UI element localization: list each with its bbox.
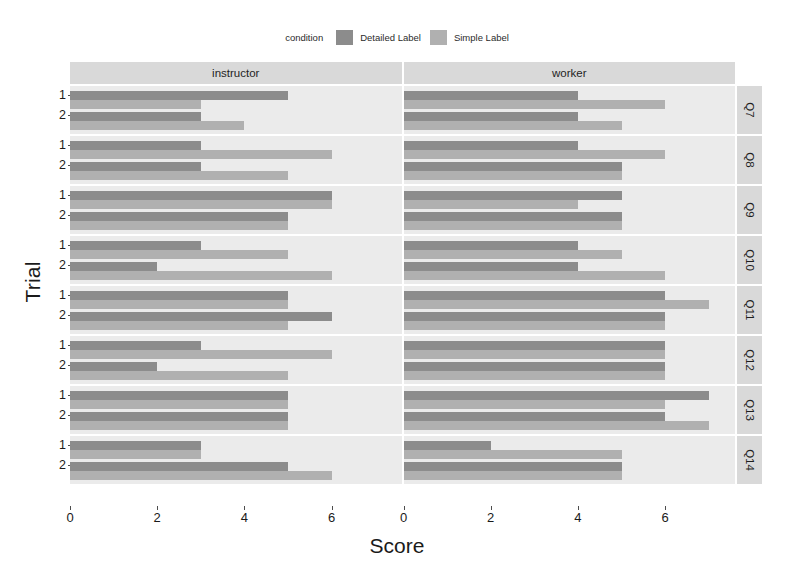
panel-q12-worker <box>404 336 736 384</box>
bar-detailed <box>70 312 332 321</box>
bar-simple <box>404 271 666 280</box>
chart-legend: condition Detailed Label Simple Label <box>0 30 794 45</box>
bar-detailed <box>404 341 666 350</box>
bar-detailed <box>404 191 622 200</box>
bar-simple <box>70 400 288 409</box>
bar-detailed <box>70 441 201 450</box>
bar-simple <box>404 450 622 459</box>
facet-header-label: Q12 <box>744 349 756 371</box>
y-tick-label: 1 <box>59 188 66 202</box>
facet-header-q7: Q7 <box>737 86 762 134</box>
facet-row: Q11 <box>70 286 762 334</box>
facet-row: Q8 <box>70 136 762 184</box>
panel-q9-instructor <box>70 186 402 234</box>
bar-simple <box>70 450 201 459</box>
panel-q8-worker <box>404 136 736 184</box>
legend-label-simple: Simple Label <box>454 32 509 43</box>
panel-q13-worker <box>404 386 736 434</box>
legend-label-detailed: Detailed Label <box>360 32 421 43</box>
facet-header-label: Q13 <box>744 399 756 421</box>
facet-header-q13: Q13 <box>737 386 762 434</box>
y-tick-label: 2 <box>59 208 66 222</box>
y-tick-group: 12 <box>46 186 68 236</box>
bar-detailed <box>70 341 201 350</box>
y-axis-tick-labels: 1212121212121212 <box>46 86 68 486</box>
x-tick-label: 4 <box>574 510 581 525</box>
panel-q11-instructor <box>70 286 402 334</box>
bar-detailed <box>70 362 157 371</box>
bar-detailed <box>404 212 622 221</box>
x-axis-instructor: 0246 <box>70 506 402 532</box>
y-tick-group: 12 <box>46 436 68 486</box>
panel-q10-instructor <box>70 236 402 284</box>
y-tick-label: 2 <box>59 108 66 122</box>
panel-q7-worker <box>404 86 736 134</box>
legend-item-simple[interactable]: Simple Label <box>430 30 509 45</box>
bar-detailed <box>70 262 157 271</box>
bar-simple <box>404 300 709 309</box>
x-tick-label: 4 <box>241 510 248 525</box>
bar-detailed <box>70 391 288 400</box>
bar-detailed <box>404 262 578 271</box>
bar-detailed <box>70 112 201 121</box>
bar-detailed <box>404 391 709 400</box>
bar-simple <box>70 200 332 209</box>
facet-header-q9: Q9 <box>737 186 762 234</box>
panel-q7-instructor <box>70 86 402 134</box>
bar-detailed <box>404 162 622 171</box>
panel-q12-instructor <box>70 336 402 384</box>
y-tick-label: 1 <box>59 438 66 452</box>
facet-header-label: Q14 <box>744 449 756 471</box>
legend-item-detailed[interactable]: Detailed Label <box>336 30 421 45</box>
bar-simple <box>70 171 288 180</box>
bar-simple <box>404 121 622 130</box>
y-axis-title: Trial <box>21 261 45 302</box>
bar-detailed <box>404 441 491 450</box>
bar-detailed <box>70 141 201 150</box>
bar-simple <box>404 321 666 330</box>
y-tick-group: 12 <box>46 386 68 436</box>
plot-area: instructor worker 1212121212121212 Q7Q8Q… <box>70 62 762 480</box>
bar-simple <box>70 250 288 259</box>
x-tick-label: 2 <box>154 510 161 525</box>
panel-q10-worker <box>404 236 736 284</box>
bar-simple <box>70 100 201 109</box>
bar-simple <box>404 250 622 259</box>
bar-simple <box>70 350 332 359</box>
bar-detailed <box>70 91 288 100</box>
facet-row: Q9 <box>70 186 762 234</box>
facet-row: Q12 <box>70 336 762 384</box>
facet-header-instructor: instructor <box>70 62 402 84</box>
facet-header-label: Q7 <box>744 102 756 117</box>
panel-q11-worker <box>404 286 736 334</box>
facet-rows: Q7Q8Q9Q10Q11Q12Q13Q14 <box>70 86 762 486</box>
y-tick-group: 12 <box>46 136 68 186</box>
panel-q14-worker <box>404 436 736 484</box>
y-tick-label: 2 <box>59 408 66 422</box>
bar-detailed <box>70 162 201 171</box>
bar-detailed <box>70 412 288 421</box>
y-tick-label: 2 <box>59 258 66 272</box>
bar-simple <box>404 200 578 209</box>
y-tick-label: 1 <box>59 238 66 252</box>
facet-header-label: Q9 <box>744 202 756 217</box>
panel-q14-instructor <box>70 436 402 484</box>
bar-detailed <box>404 141 578 150</box>
facet-header-q12: Q12 <box>737 336 762 384</box>
bar-simple <box>404 221 622 230</box>
bar-detailed <box>70 241 201 250</box>
y-tick-label: 1 <box>59 338 66 352</box>
faceted-bar-chart: condition Detailed Label Simple Label Tr… <box>0 0 794 564</box>
y-tick-label: 1 <box>59 288 66 302</box>
x-tick-label: 0 <box>400 510 407 525</box>
bar-simple <box>404 400 666 409</box>
panel-q8-instructor <box>70 136 402 184</box>
y-tick-group: 12 <box>46 286 68 336</box>
y-tick-label: 1 <box>59 138 66 152</box>
x-tick-label: 0 <box>66 510 73 525</box>
bar-detailed <box>70 212 288 221</box>
bar-detailed <box>404 462 622 471</box>
bar-simple <box>404 171 622 180</box>
x-tick-label: 6 <box>662 510 669 525</box>
y-tick-label: 2 <box>59 158 66 172</box>
